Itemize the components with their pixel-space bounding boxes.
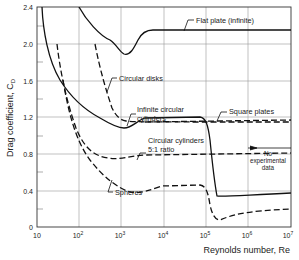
x-tick-1e7: 107 bbox=[283, 230, 294, 239]
curve-flat-plate bbox=[79, 7, 291, 54]
x-axis-title: Reynolds number, Re bbox=[203, 245, 290, 255]
x-tick-1e4: 104 bbox=[158, 230, 169, 239]
y-tick-12: 1.2 bbox=[23, 114, 33, 121]
label-cylinders-5to1-2: 5:1 ratio bbox=[148, 145, 174, 154]
y-tick-16: 1.6 bbox=[23, 78, 33, 85]
y-tick-08: 0.8 bbox=[23, 151, 33, 158]
y-tick-24: 2.4 bbox=[23, 4, 33, 11]
y-tick-0: 0 bbox=[29, 224, 33, 231]
label-infinite-cylinders-2: cylinders bbox=[137, 114, 166, 123]
x-tick-1e2: 102 bbox=[73, 230, 84, 239]
x-tick-10: 10 bbox=[33, 232, 41, 239]
drag-coefficient-chart: Flat plate (infinite) Circular disks Inf… bbox=[0, 0, 299, 260]
label-flat-plate: Flat plate (infinite) bbox=[196, 16, 254, 25]
label-infinite-cylinders-1: Infinite circular bbox=[137, 105, 185, 114]
minor-ticks bbox=[37, 26, 43, 209]
curve-infinite-cylinders bbox=[42, 7, 291, 196]
x-tick-1e3: 103 bbox=[115, 230, 126, 239]
x-tick-1e6: 106 bbox=[242, 230, 253, 239]
y-tick-20: 2.0 bbox=[23, 41, 33, 48]
label-no-exp-1: No bbox=[264, 150, 273, 157]
y-axis-title: Drag coefficient, CD bbox=[5, 78, 16, 157]
label-cylinders-5to1-1: Circular cylinders bbox=[148, 136, 204, 145]
label-spheres: Spheres bbox=[115, 188, 143, 197]
label-no-exp-3: data bbox=[262, 164, 275, 171]
y-tick-04: 0.4 bbox=[23, 188, 33, 195]
x-tick-1e5: 105 bbox=[200, 230, 211, 239]
label-square-plates: Square plates bbox=[229, 107, 274, 116]
curve-spheres bbox=[63, 80, 291, 220]
label-circular-disks: Circular disks bbox=[119, 74, 163, 83]
